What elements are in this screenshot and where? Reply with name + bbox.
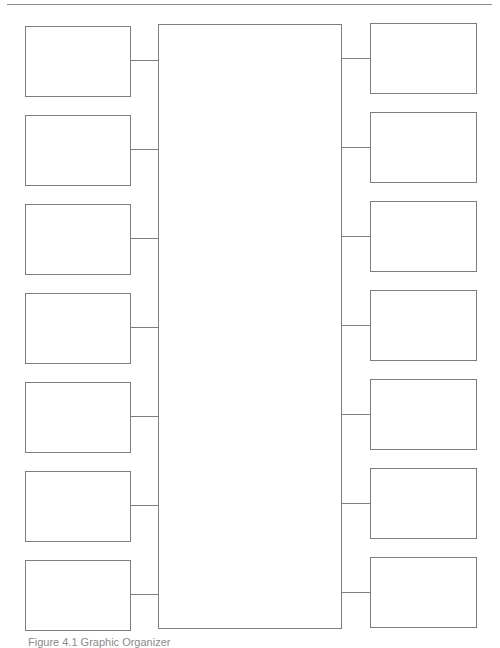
left-box-5[interactable] [25,382,131,453]
right-box-text [371,291,476,360]
left-box-text [26,383,130,452]
right-connector-line [342,325,370,326]
left-box-text [26,294,130,363]
right-connector-line [342,58,370,59]
figure-caption: Figure 4.1 Graphic Organizer [28,636,170,648]
right-connector-line [342,236,370,237]
right-box-text [371,202,476,271]
right-box-text [371,558,476,627]
left-box-6[interactable] [25,471,131,542]
left-connector-line [131,149,158,150]
left-connector-line [131,594,158,595]
right-box-text [371,24,476,93]
right-connector-line [342,147,370,148]
top-rule [7,4,492,5]
right-box-2[interactable] [370,112,477,183]
left-connector-line [131,238,158,239]
right-connector-line [342,414,370,415]
center-box[interactable] [158,24,342,629]
right-connector-line [342,503,370,504]
left-box-4[interactable] [25,293,131,364]
right-box-text [371,469,476,538]
right-box-3[interactable] [370,201,477,272]
left-box-7[interactable] [25,560,131,631]
right-box-4[interactable] [370,290,477,361]
right-box-7[interactable] [370,557,477,628]
left-box-1[interactable] [25,26,131,97]
left-box-text [26,205,130,274]
right-box-text [371,380,476,449]
right-box-6[interactable] [370,468,477,539]
right-connector-line [342,592,370,593]
left-connector-line [131,327,158,328]
left-box-2[interactable] [25,115,131,186]
left-connector-line [131,416,158,417]
right-box-1[interactable] [370,23,477,94]
left-box-text [26,116,130,185]
left-box-text [26,561,130,630]
center-box-text [159,25,341,628]
right-box-text [371,113,476,182]
left-box-3[interactable] [25,204,131,275]
left-connector-line [131,60,158,61]
right-box-5[interactable] [370,379,477,450]
left-box-text [26,27,130,96]
left-box-text [26,472,130,541]
left-connector-line [131,505,158,506]
